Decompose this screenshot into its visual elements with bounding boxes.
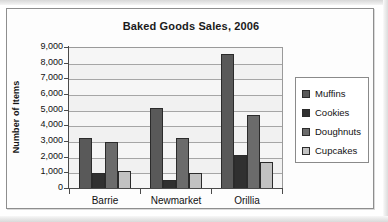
y-axis-tick-label: 1,000 [29,167,63,176]
bar-cupcakes-newmarket [189,173,202,189]
y-axis-title-label: Number of Items [11,81,21,154]
legend-swatch-icon [302,147,310,155]
bar-doughnuts-barrie [105,142,118,189]
legend-item-doughnuts[interactable]: Doughnuts [302,122,368,141]
legend-swatch-icon [302,90,310,98]
bar-cookies-barrie [92,173,105,189]
gridline [69,111,282,112]
bar-doughnuts-newmarket [176,138,189,189]
legend-swatch-icon [302,128,310,136]
legend-item-muffins[interactable]: Muffins [302,84,368,103]
bar-muffins-orillia [221,54,234,189]
chart-page: Baked Goods Sales, 2006 Number of Items … [0,0,388,222]
bar-cupcakes-orillia [260,162,273,189]
y-axis-tick [64,47,69,48]
x-axis-tick [140,189,141,194]
bar-doughnuts-orillia [247,115,260,189]
y-axis-tick-labels: 9,0008,0007,0006,0005,0004,0003,0002,000… [25,9,63,210]
chart-legend: MuffinsCookiesDoughnutsCupcakes [295,77,369,163]
x-axis-category-label: Newmarket [136,195,216,206]
x-axis-category-label: Barrie [65,195,145,206]
scan-edge-bottom [0,216,388,222]
scan-edge-right [383,0,388,222]
chart-frame: Baked Goods Sales, 2006 Number of Items … [6,8,374,209]
y-axis-tick-label: 4,000 [29,120,63,129]
x-axis-tick [69,189,70,194]
y-axis-tick-label: 6,000 [29,89,63,98]
bar-cookies-orillia [234,155,247,189]
y-axis-tick [64,63,69,64]
x-axis-tick [282,189,283,194]
y-axis-tick-label: 9,000 [29,42,63,51]
y-axis-tick-label: 7,000 [29,73,63,82]
gridline [69,79,282,80]
bar-muffins-barrie [79,138,92,189]
y-axis-tick [64,94,69,95]
x-axis-line [68,188,283,189]
y-axis-tick [64,172,69,173]
y-axis-tick-label: 8,000 [29,58,63,67]
legend-label: Cookies [315,107,349,118]
plot-band [69,64,282,80]
legend-swatch-icon [302,109,310,117]
y-axis-tick-label: 3,000 [29,136,63,145]
y-axis-tick-label: 5,000 [29,105,63,114]
y-axis-tick-label: 2,000 [29,152,63,161]
scan-edge-top [0,0,388,5]
legend-item-cookies[interactable]: Cookies [302,103,368,122]
gridline [69,95,282,96]
y-axis-tick [64,110,69,111]
plot-band [69,48,282,64]
y-axis-tick [64,125,69,126]
y-axis-title: Number of Items [9,57,23,177]
legend-label: Muffins [315,88,345,99]
x-axis-tick [211,189,212,194]
legend-label: Doughnuts [315,126,361,137]
y-axis-tick-label: 0 [29,183,63,192]
plot-area [69,47,283,189]
bar-muffins-newmarket [150,108,163,189]
bar-cupcakes-barrie [118,171,131,189]
gridline [69,64,282,65]
legend-item-cupcakes[interactable]: Cupcakes [302,141,368,160]
legend-label: Cupcakes [315,145,357,156]
x-axis-category-label: Orillia [207,195,287,206]
y-axis-tick [64,157,69,158]
plot-band [69,95,282,111]
y-axis-line [68,46,69,189]
plot-band [69,79,282,95]
y-axis-tick [64,141,69,142]
y-axis-tick [64,78,69,79]
